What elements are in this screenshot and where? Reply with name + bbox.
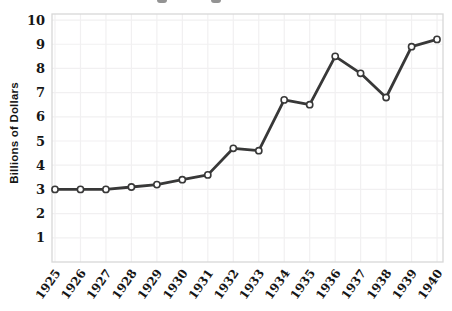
y-tick-label-7: 7 [36, 85, 45, 100]
data-point-1939 [409, 44, 415, 50]
data-point-1929 [154, 182, 160, 188]
data-point-1937 [358, 70, 364, 76]
data-point-1925 [52, 186, 58, 192]
x-tick-label-1927: 1927 [84, 267, 115, 302]
x-tick-label-1934: 1934 [262, 267, 293, 302]
x-tick-label-1933: 1933 [237, 267, 268, 302]
y-tick-label-8: 8 [36, 61, 45, 76]
data-point-1928 [128, 184, 134, 190]
x-tick-label-1936: 1936 [313, 267, 344, 302]
x-tick-label-1930: 1930 [160, 267, 191, 302]
data-point-1931 [205, 172, 211, 178]
y-tick-label-1: 1 [36, 230, 45, 245]
x-tick-label-1939: 1939 [389, 267, 420, 302]
y-tick-label-6: 6 [36, 109, 45, 124]
x-tick-label-1926: 1926 [58, 267, 89, 302]
x-tick-label-1938: 1938 [364, 267, 395, 302]
data-point-1926 [77, 186, 83, 192]
horizontal-gridlines [52, 20, 443, 238]
data-point-1934 [281, 97, 287, 103]
data-point-1938 [383, 94, 389, 100]
x-tick-label-1925: 1925 [33, 267, 64, 302]
x-tick-label-1940: 1940 [415, 267, 446, 302]
data-point-1940 [434, 36, 440, 42]
x-tick-label-1931: 1931 [186, 267, 217, 302]
x-tick-label-1932: 1932 [211, 267, 242, 302]
x-tick-label-1937: 1937 [338, 267, 369, 302]
x-tick-label-1935: 1935 [288, 267, 319, 302]
chart-figure: 1234567891019251926192719281929193019311… [0, 0, 452, 311]
y-tick-label-10: 10 [27, 13, 45, 28]
data-point-markers [52, 36, 440, 192]
vertical-gridlines [55, 14, 437, 262]
data-line [55, 39, 437, 189]
y-tick-label-3: 3 [36, 182, 45, 197]
data-point-1927 [103, 186, 109, 192]
y-tick-label-9: 9 [36, 37, 45, 52]
x-tick-label-1928: 1928 [109, 267, 140, 302]
plot-border [52, 14, 443, 262]
y-tick-label-5: 5 [36, 134, 45, 149]
data-point-1932 [230, 145, 236, 151]
data-point-1935 [307, 102, 313, 108]
data-point-1930 [179, 177, 185, 183]
x-axis-tick-labels: 1925192619271928192919301931193219331934… [33, 267, 446, 302]
data-point-1936 [332, 53, 338, 59]
y-axis-title: Billions of Dollars [8, 82, 20, 184]
y-tick-label-4: 4 [36, 158, 45, 173]
x-tick-label-1929: 1929 [135, 267, 166, 302]
y-axis-tick-labels: 12345678910 [27, 13, 45, 246]
y-tick-label-2: 2 [36, 206, 45, 221]
clipped-title-text-fragment [157, 0, 167, 3]
line-chart: 1234567891019251926192719281929193019311… [0, 0, 452, 311]
data-point-1933 [256, 148, 262, 154]
clipped-title-text-fragment [211, 0, 221, 3]
